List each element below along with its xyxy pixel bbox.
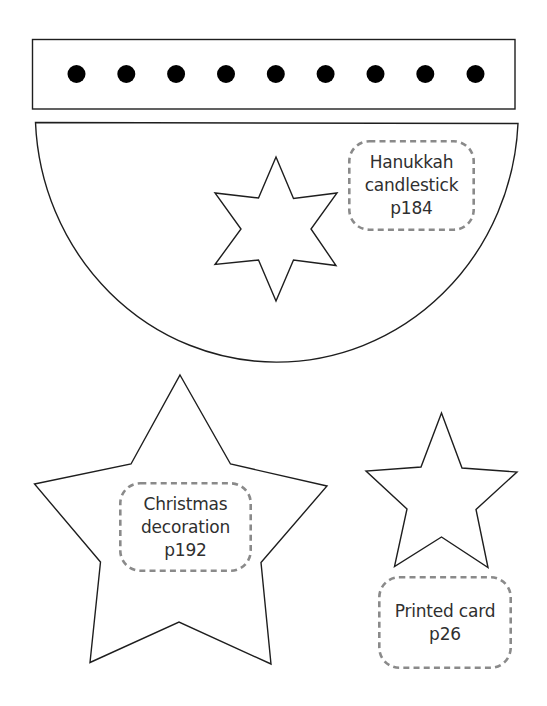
strip-dot-2	[117, 65, 135, 83]
label-page-ref: p184	[390, 197, 432, 220]
label-subtitle: decoration	[141, 516, 230, 539]
dotted-strip	[33, 40, 516, 110]
label-page-ref: p26	[429, 623, 461, 646]
strip-dot-3	[167, 65, 185, 83]
label-christmas-decoration: Christmas decoration p192	[119, 482, 252, 572]
label-subtitle: candlestick	[365, 174, 459, 197]
label-printed-card: Printed card p26	[378, 576, 512, 669]
strip-dot-5	[267, 65, 285, 83]
strip-dot-9	[467, 65, 485, 83]
strip-dot-7	[367, 65, 385, 83]
strip-dot-4	[217, 65, 235, 83]
label-page-ref: p192	[164, 539, 206, 562]
strip-dot-8	[416, 65, 434, 83]
label-title: Printed card	[395, 600, 496, 623]
label-title: Christmas	[144, 493, 228, 516]
strip-dot-6	[317, 65, 335, 83]
label-hanukkah-candlestick: Hanukkah candlestick p184	[348, 140, 475, 231]
label-title: Hanukkah	[370, 151, 454, 174]
small-star-shape	[366, 413, 517, 568]
strip-dot-1	[68, 65, 86, 83]
